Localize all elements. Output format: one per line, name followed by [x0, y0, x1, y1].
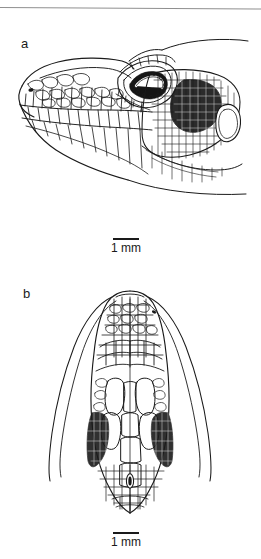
- page-top-rule: [0, 7, 261, 10]
- figure-plate: a: [0, 0, 261, 559]
- figure-a-lateral-head-drawing: [12, 28, 252, 208]
- scalebar-panel-a: 1 mm: [96, 238, 156, 255]
- panel-label-b: b: [23, 287, 30, 300]
- figure-b-dorsal-head-drawing: [36, 285, 226, 525]
- scalebar-label-b: 1 mm: [96, 536, 156, 549]
- scalebar-line-b: [113, 532, 139, 534]
- scalebar-line-a: [113, 238, 139, 240]
- scalebar-panel-b: 1 mm: [96, 532, 156, 549]
- scalebar-label-a: 1 mm: [96, 242, 156, 255]
